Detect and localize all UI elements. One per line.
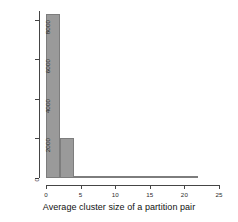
histogram-bar	[143, 176, 157, 178]
histogram-bar	[88, 176, 102, 178]
x-tick-mark	[184, 185, 185, 189]
histogram-bar	[46, 14, 60, 178]
x-tick-label: 10	[112, 191, 119, 198]
histogram-bar	[171, 176, 185, 178]
x-tick-label: 0	[44, 191, 48, 198]
y-tick-label: 6000	[44, 59, 51, 73]
y-tick-label: 8000	[44, 20, 51, 34]
histogram-bar	[184, 176, 198, 178]
x-tick-label: 25	[215, 191, 222, 198]
histogram-bar	[115, 176, 129, 178]
y-tick-label: 0	[33, 178, 40, 182]
plot-area	[46, 8, 219, 178]
histogram-bar	[74, 176, 88, 178]
y-tick-mark	[35, 99, 39, 100]
x-tick-mark	[150, 185, 151, 189]
x-tick-mark	[219, 185, 220, 189]
histogram-bar	[157, 176, 171, 178]
y-tick-mark	[35, 59, 39, 60]
histogram-bar	[101, 176, 115, 178]
y-tick-label: 4000	[44, 99, 51, 113]
y-tick-mark	[35, 20, 39, 21]
x-tick-label: 15	[146, 191, 153, 198]
histogram-bar	[60, 138, 74, 178]
x-axis-line	[46, 185, 219, 186]
histogram-figure: 0510152025 02000400060008000 Average clu…	[0, 0, 238, 222]
histogram-bar	[129, 176, 143, 178]
y-axis-line	[39, 11, 40, 178]
x-tick-label: 20	[181, 191, 188, 198]
x-tick-mark	[81, 185, 82, 189]
x-tick-mark	[46, 185, 47, 189]
y-tick-label: 2000	[44, 138, 51, 152]
x-tick-mark	[115, 185, 116, 189]
y-tick-mark	[35, 138, 39, 139]
x-tick-label: 5	[79, 191, 83, 198]
x-axis-title: Average cluster size of a partition pair	[0, 202, 238, 212]
